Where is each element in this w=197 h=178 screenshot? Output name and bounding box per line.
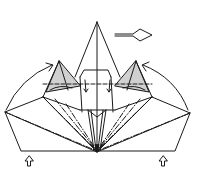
turn-over-arrow-icon xyxy=(115,29,152,41)
push-up-arrow-right-icon xyxy=(159,156,167,166)
origami-diagram: Origami fold diagram: pyramid/crown form… xyxy=(0,0,197,178)
push-up-arrow-left-icon xyxy=(25,156,33,166)
fold-arrow-left xyxy=(6,63,53,110)
